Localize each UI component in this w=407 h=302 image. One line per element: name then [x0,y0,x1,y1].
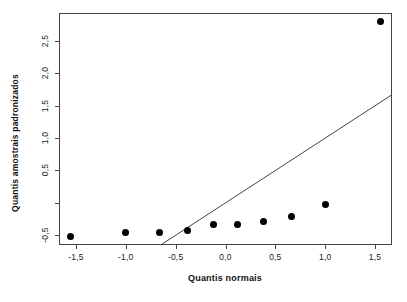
x-tick-label: 0,0 [219,252,231,262]
data-point [234,221,241,228]
x-tick-label: 1,0 [319,252,331,262]
x-tick-mark [76,245,77,249]
x-tick-mark [325,245,326,249]
x-tick-label: 0,5 [269,252,281,262]
x-tick-mark [275,245,276,249]
y-tick-mark [55,41,59,42]
y-tick-mark [55,138,59,139]
data-point [156,229,163,236]
x-tick-label: 1,5 [369,252,381,262]
y-tick-mark [55,170,59,171]
y-tick-mark [55,106,59,107]
x-tick-mark [226,245,227,249]
data-point [288,213,295,220]
y-axis-label: Quantis amostrais padronizados [10,74,20,212]
x-tick-label: -1,0 [118,252,133,262]
y-tick-label: 2,5 [40,35,50,47]
data-point [377,18,384,25]
x-tick-label: -0,5 [168,252,183,262]
y-tick-label: 1,5 [40,99,50,111]
y-tick-mark [55,73,59,74]
y-tick-label: -0,5 [40,228,50,243]
x-tick-label: -1,5 [68,252,83,262]
data-point [322,201,329,208]
y-tick-mark [55,203,59,204]
x-tick-mark [375,245,376,249]
y-tick-mark [55,235,59,236]
x-tick-mark [176,245,177,249]
x-tick-mark [126,245,127,249]
y-tick-label: 0,5 [40,164,50,176]
y-tick-label: 2,0 [40,67,50,79]
data-point [184,227,191,234]
y-tick-label: 1,0 [40,132,50,144]
x-axis-label: Quantis normais [188,273,262,283]
data-point [260,218,267,225]
reference-line-layer [59,13,392,245]
identity-line [161,95,392,245]
qq-plot-figure: Quantis normais Quantis amostrais padron… [0,0,407,302]
